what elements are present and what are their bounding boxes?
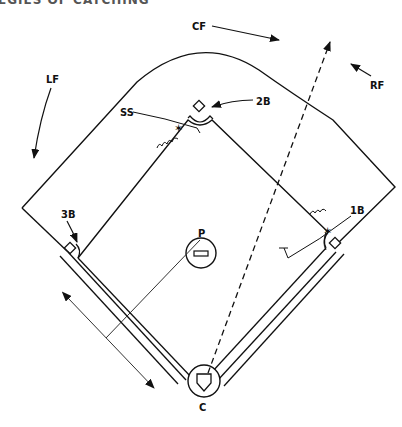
rf-arrow [351, 64, 371, 76]
second-base-marker [193, 100, 204, 111]
label-p: P [198, 227, 205, 240]
first-base-marker [329, 237, 340, 248]
third-base-line [60, 244, 192, 384]
ss-star: ✶ [174, 122, 183, 134]
label-c: C [199, 401, 206, 414]
first-base-star: ✶ [323, 225, 332, 237]
third-base-arrow [67, 221, 77, 242]
third-base-marker [64, 242, 75, 253]
label-1b: 1B [350, 204, 364, 217]
label-cf: CF [192, 20, 206, 33]
outfield-fence [22, 53, 395, 252]
label-lf: LF [46, 73, 59, 86]
label-2b: 2B [256, 95, 270, 108]
ss-pointer-line [133, 112, 200, 133]
lf-arrow [34, 88, 51, 158]
first-base-wiggle [310, 209, 326, 214]
label-3b: 3B [61, 208, 75, 221]
second-base-arrow [212, 100, 253, 107]
pitchers-mound [186, 238, 216, 268]
label-rf: RF [370, 79, 384, 92]
home-plate-area [188, 365, 220, 397]
label-ss: SS [120, 106, 134, 119]
fly-ball-path [208, 42, 330, 373]
pitchers-rubber [194, 251, 208, 256]
cf-arrow [212, 26, 279, 40]
first-base-line [212, 232, 344, 386]
pitcher-relay-line [106, 240, 200, 338]
baseball-field-diagram: ✶ ✶ CF RF LF SS 2B 3B 1B P C [0, 0, 402, 427]
